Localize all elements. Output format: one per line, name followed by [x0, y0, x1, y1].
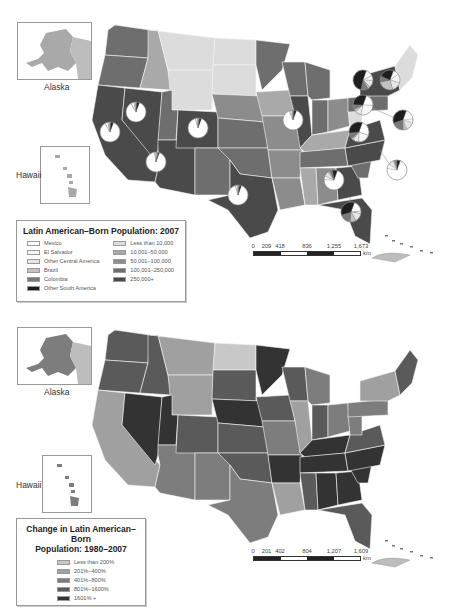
state-ar — [268, 455, 302, 483]
legend-title-line2: Population: 1980–2007 — [17, 544, 145, 554]
legend-swatch — [27, 250, 40, 255]
hawaii-shape — [43, 456, 91, 512]
scale-tick-label: 1,255 — [327, 243, 342, 249]
state-mi — [305, 62, 330, 100]
scale-unit: km — [363, 250, 371, 256]
legend-top: Latin American–Born Population: 2007 Mex… — [16, 220, 186, 302]
caribbean-island — [392, 240, 395, 242]
scale-unit: km — [363, 555, 371, 561]
legend-label: Colombia — [44, 276, 68, 282]
legend-label: 401%–800% — [74, 577, 106, 583]
hawaii-inset — [42, 455, 92, 513]
hawaii-inset — [40, 146, 90, 204]
state-ny — [360, 371, 400, 401]
legend-swatch — [57, 560, 70, 565]
legend-change-column: Less than 200%201%–400%401%–800%801%–160… — [17, 554, 145, 602]
legend-item: 801%–1600% — [57, 585, 145, 593]
state-ne_new — [395, 350, 418, 395]
state-oh — [328, 98, 350, 132]
scale-tick-label: 0 — [251, 548, 254, 554]
state-or — [98, 360, 148, 393]
state-co — [176, 415, 218, 453]
legend-swatch — [113, 241, 126, 246]
scale-tick-label: 418 — [275, 243, 285, 249]
scale-tick-label: 1,207 — [327, 548, 342, 554]
hawaii-label: Hawaii — [16, 480, 42, 490]
scale-tick-label: 0 — [251, 243, 254, 249]
legend-label: Other Central America — [44, 258, 99, 264]
legend-swatch — [57, 596, 70, 601]
state-in — [312, 405, 328, 440]
map-change-latin-american-born-1980-2007: Alaska Hawaii Change in Latin American–B… — [0, 305, 458, 610]
legend-item: El Salvador — [27, 248, 99, 256]
legend-label: Less than 200% — [74, 559, 114, 565]
legend-label: 801%–1600% — [74, 586, 109, 592]
legend-swatch — [27, 268, 40, 273]
legend-swatch — [57, 569, 70, 574]
caribbean-island — [420, 250, 423, 252]
cuba-shape — [372, 253, 410, 262]
legend-item: 100,001–250,000 — [113, 266, 174, 274]
state-nd — [213, 343, 256, 370]
legend-item: 201%–400% — [57, 567, 145, 575]
legend-item: Mexico — [27, 239, 99, 247]
state-wy — [168, 375, 213, 415]
scale-tick-label: 804 — [302, 548, 312, 554]
state-in — [312, 100, 328, 135]
state-nd — [213, 38, 256, 65]
legend-swatch — [27, 241, 40, 246]
state-pa — [348, 399, 388, 417]
scale-tick-label: 1,673 — [354, 243, 369, 249]
pie-chart-florida — [341, 202, 361, 222]
legend-swatch — [57, 587, 70, 592]
legend-swatch — [113, 277, 126, 282]
state-mi — [305, 367, 330, 405]
scale-tick-label: 402 — [275, 548, 285, 554]
legend-label: Brazil — [44, 267, 58, 273]
legend-item: Less than 10,000 — [113, 239, 174, 247]
legend-swatch — [27, 277, 40, 282]
legend-swatch — [113, 259, 126, 264]
caribbean-island — [400, 243, 403, 245]
scale-ticks: 02014028041,2071,609 — [253, 548, 361, 556]
caribbean-island — [410, 551, 413, 553]
caribbean-island — [400, 548, 403, 550]
scale-bar-graphic — [253, 556, 361, 561]
legend-item: Brazil — [27, 266, 99, 274]
cuba-shape — [372, 558, 410, 567]
state-oh — [328, 403, 350, 437]
legend-swatch — [113, 250, 126, 255]
pie-chart-massachusetts — [380, 70, 400, 90]
scale-bar-bottom: 02014028041,2071,609 km — [253, 548, 361, 561]
state-sd — [212, 370, 256, 401]
legend-label: 1601% + — [74, 595, 96, 601]
hawaii-shape — [41, 147, 89, 203]
legend-origin-column: MexicoEl SalvadorOther Central AmericaBr… — [27, 239, 99, 292]
caribbean-island — [392, 545, 395, 547]
legend-label: 100,001–250,000 — [130, 267, 174, 273]
alaska-inset — [17, 327, 92, 385]
pie-chart-virginia — [349, 122, 369, 142]
legend-label: Other South America — [44, 285, 96, 291]
state-ne — [212, 94, 265, 122]
pie-chart-nevada — [126, 102, 146, 122]
pie-chart-arizona — [146, 152, 166, 172]
legend-item: 50,001–100,000 — [113, 257, 174, 265]
scale-bar-graphic — [253, 251, 361, 256]
legend-label: El Salvador — [44, 249, 73, 255]
state-ne — [212, 399, 265, 427]
legend-bottom: Change in Latin American–Born Population… — [16, 518, 146, 606]
legend-item: 401%–800% — [57, 576, 145, 584]
state-ar — [268, 150, 302, 178]
legend-swatch — [113, 268, 126, 273]
scale-tick-label: 201 — [262, 548, 272, 554]
map-latin-american-born-population-2007: Alaska Hawaii Latin American–Born Popula… — [0, 0, 458, 300]
pie-chart-texas — [228, 185, 248, 205]
state-wy — [168, 70, 213, 110]
state-al — [316, 473, 338, 510]
pie-chart-colorado — [188, 118, 208, 138]
scale-tick-label: 1,609 — [354, 548, 369, 554]
caribbean-island — [420, 555, 423, 557]
caribbean-island — [430, 557, 433, 559]
state-wa — [105, 25, 150, 58]
